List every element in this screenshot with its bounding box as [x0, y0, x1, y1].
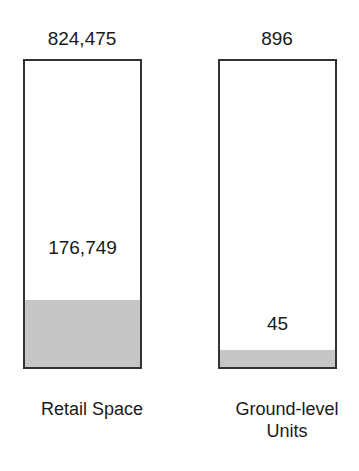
subset-label-retail-space: 176,749: [25, 237, 140, 259]
total-label-ground-level-units: 896: [207, 28, 347, 50]
bar-group-ground-level-units: 896 45 Ground-level Units: [207, 0, 347, 471]
bar-retail-space: 176,749: [23, 59, 142, 369]
bar-group-retail-space: 824,475 176,749 Retail Space: [12, 0, 152, 471]
category-label-retail-space: Retail Space: [22, 398, 162, 420]
subset-label-ground-level-units: 45: [220, 313, 335, 335]
fill-ground-level-units: [220, 350, 335, 367]
fill-retail-space: [25, 300, 140, 367]
bar-ground-level-units: 45: [218, 59, 337, 369]
category-label-ground-level-units: Ground-level Units: [217, 398, 357, 442]
total-label-retail-space: 824,475: [12, 28, 152, 50]
